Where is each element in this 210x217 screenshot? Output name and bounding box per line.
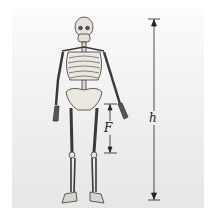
pelvis xyxy=(66,88,102,110)
skeleton-figure xyxy=(0,0,210,217)
femur-label: F xyxy=(104,121,112,135)
height-label: h xyxy=(149,111,157,125)
height-dimension xyxy=(148,19,160,200)
